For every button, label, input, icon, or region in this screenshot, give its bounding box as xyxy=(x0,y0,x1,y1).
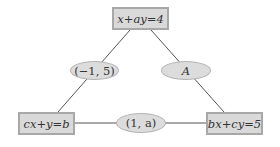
node-equation-bottom-left: cx+y=b xyxy=(18,112,75,135)
edge-label-top-right-text: A xyxy=(182,64,190,78)
edge-label-top-left-text: (−1, 5) xyxy=(74,64,115,78)
edge-label-bottom-text: (1, a) xyxy=(126,116,156,130)
node-equation-bottom-right: bx+cy=5 xyxy=(206,112,263,135)
edge-label-bottom: (1, a) xyxy=(116,113,166,133)
edge-label-top-right: A xyxy=(161,61,211,80)
node-equation-top-label: x+ay=4 xyxy=(117,12,163,26)
node-equation-bottom-left-label: cx+y=b xyxy=(23,117,69,131)
edge-label-top-left: (−1, 5) xyxy=(70,61,119,80)
node-equation-bottom-right-label: bx+cy=5 xyxy=(208,117,261,131)
node-equation-top: x+ay=4 xyxy=(112,7,169,30)
